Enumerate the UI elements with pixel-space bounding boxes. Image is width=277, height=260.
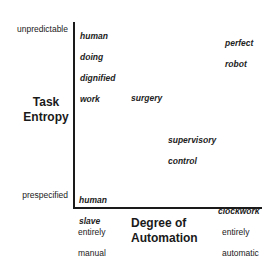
point-label-line: supervisory	[168, 135, 216, 146]
x-axis-title-line1: Degree of	[131, 216, 198, 231]
x-axis-left-label-line2: manual	[78, 248, 106, 259]
point-label-line: control	[168, 156, 216, 167]
x-axis-title-line2: Automation	[131, 231, 198, 246]
y-axis-title-line2: Entropy	[22, 110, 70, 125]
y-axis-top-label: unpredictable	[17, 24, 68, 34]
x-axis-title: Degree of Automation	[131, 216, 198, 246]
point-human-slave: human slave	[79, 184, 107, 237]
point-label-line: clockwork	[218, 206, 260, 217]
point-label-line: human	[79, 195, 107, 206]
point-label-line: work	[80, 94, 115, 105]
y-axis-title-line1: Task	[22, 95, 70, 110]
point-supervisory-control: supervisory control	[168, 124, 216, 177]
point-human-doing-dignified-work: human doing dignified work	[80, 20, 115, 115]
y-axis-line	[73, 22, 75, 208]
point-clockwork: clockwork	[218, 195, 260, 227]
point-label-line: doing	[80, 52, 115, 63]
point-label-line: dignified	[80, 73, 115, 84]
y-axis-title: Task Entropy	[22, 95, 70, 125]
point-perfect-robot: perfect robot	[225, 27, 253, 80]
point-label-line: surgery	[131, 93, 162, 104]
point-label-line: perfect	[225, 38, 253, 49]
x-axis-right-label-line1: entirely	[222, 227, 259, 238]
y-axis-bottom-label: prespecified	[22, 190, 68, 200]
point-label-line: slave	[79, 216, 107, 227]
point-label-line: robot	[225, 59, 253, 70]
x-axis-right-label-line2: automatic	[222, 248, 259, 259]
point-surgery: surgery	[131, 82, 162, 114]
point-label-line: human	[80, 31, 115, 42]
